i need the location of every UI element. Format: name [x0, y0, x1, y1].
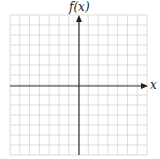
y-axis-label: f(x): [69, 0, 90, 14]
y-axis-arrow-icon: [76, 15, 82, 22]
x-axis-label: x: [150, 78, 157, 92]
coordinate-grid: [0, 0, 160, 159]
